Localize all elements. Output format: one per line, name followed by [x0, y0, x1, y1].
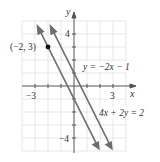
arrowhead-icon: [93, 142, 99, 148]
y-axis-label: y: [65, 6, 71, 17]
tick-label-3: 3: [110, 91, 115, 101]
arrowhead-icon: [106, 142, 112, 148]
line-4x-plus-2y-eq-2: [51, 26, 112, 149]
equation-label-2: 4x + 2y = 2: [99, 108, 144, 118]
tick-label-neg4: −4: [59, 134, 69, 144]
line-y-eq-neg2x-minus1: [38, 26, 99, 149]
arrowhead-icon: [38, 26, 44, 34]
tick-label-4: 4: [65, 29, 70, 39]
y-axis-arrow-icon: [72, 12, 76, 18]
equation-label-1: y = −2x − 1: [82, 62, 130, 72]
point-label: (−2, 3): [10, 42, 36, 53]
point-neg2-3: [46, 45, 51, 50]
arrowhead-icon: [51, 26, 57, 34]
graph: y x −3 3 4 −4 (−2, 3) y = −2x − 1 4x + 2…: [0, 0, 160, 162]
tick-label-neg3: −3: [26, 91, 36, 101]
x-axis-label: x: [129, 88, 135, 99]
